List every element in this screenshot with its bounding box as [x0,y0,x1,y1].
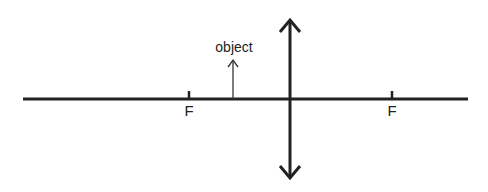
focal-point-left: F [184,91,193,119]
lens-diagram: F F object [0,0,488,192]
object-label: object [215,39,252,55]
focal-point-right: F [387,91,396,119]
focal-label-left: F [184,102,193,119]
focal-label-right: F [387,102,396,119]
object-arrow: object [215,39,252,99]
